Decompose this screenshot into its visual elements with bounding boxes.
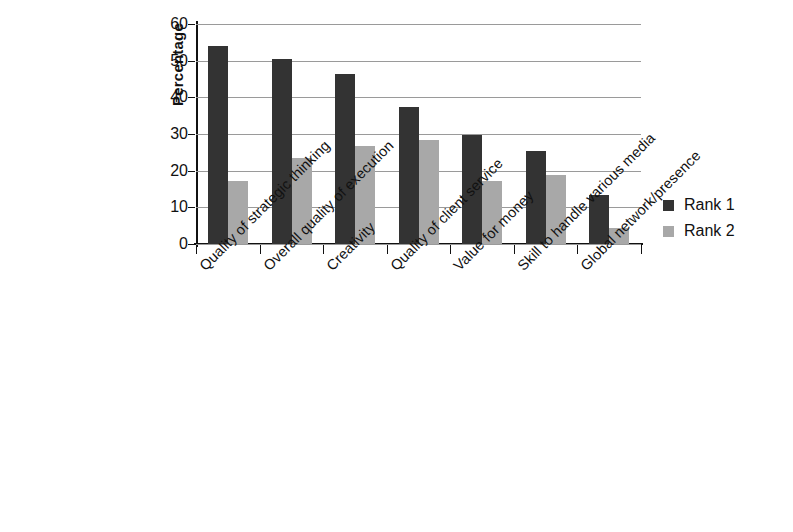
chart-legend: Rank 1Rank 2 (663, 192, 735, 244)
legend-label: Rank 2 (684, 222, 735, 240)
gridline (196, 61, 641, 62)
y-axis-tick-label: 0 (144, 244, 188, 245)
x-axis-tick (641, 245, 642, 254)
y-axis-tick (188, 134, 195, 135)
gridline (196, 24, 641, 25)
legend-swatch-icon (663, 200, 674, 211)
x-axis-tick (577, 245, 578, 254)
x-axis-tick (514, 245, 515, 254)
bar-chart: Percentage 0102030405060 Quality of stra… (0, 0, 793, 532)
gridline (196, 97, 641, 98)
bar (399, 107, 419, 245)
legend-item: Rank 2 (663, 218, 735, 244)
x-axis-tick (323, 245, 324, 254)
y-axis-tick (188, 171, 195, 172)
legend-item: Rank 1 (663, 192, 735, 218)
legend-label: Rank 1 (684, 196, 735, 214)
y-axis-tick-label: 30 (144, 134, 188, 135)
y-axis-tick-label: 50 (144, 61, 188, 62)
x-axis-tick (260, 245, 261, 254)
y-axis-tick-label: 10 (144, 207, 188, 208)
bar (272, 59, 292, 244)
y-axis-tick-label: 20 (144, 171, 188, 172)
y-axis-tick (188, 207, 195, 208)
x-axis-tick (387, 245, 388, 254)
y-axis-tick-label: 60 (144, 24, 188, 25)
y-axis-tick (188, 24, 195, 25)
legend-swatch-icon (663, 226, 674, 237)
y-axis-tick (188, 244, 195, 245)
y-axis-tick-label: 40 (144, 97, 188, 98)
bar (208, 46, 228, 244)
y-axis-tick (188, 97, 195, 98)
x-axis-tick (450, 245, 451, 254)
bar (335, 74, 355, 245)
y-axis-tick (188, 61, 195, 62)
x-axis-tick (196, 245, 197, 254)
